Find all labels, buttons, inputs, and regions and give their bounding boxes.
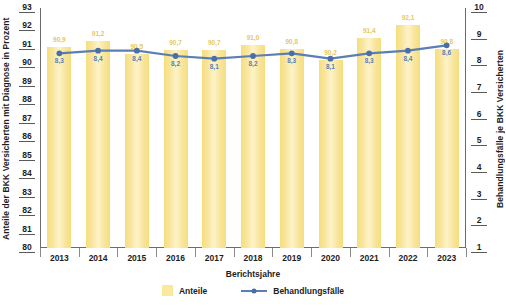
y-tick-label: 88 [14,94,40,106]
category-label: 2016 [156,250,195,266]
y-tick-label: 91 [14,39,40,51]
line-point[interactable] [328,56,334,62]
y-tick-label: 87 [14,113,40,125]
category-label: 2021 [350,250,389,266]
y2-tick-label: 9 [466,29,492,41]
y-tick-label: 93 [14,2,40,14]
category-tick [466,248,467,257]
y2-tick-label: 2 [466,215,492,227]
y-tick-label: 85 [14,150,40,162]
line-value-label: 8,3 [365,57,374,64]
line-point[interactable] [134,48,140,54]
y-tick-label: 84 [14,168,40,180]
line-value-label: 8,2 [248,60,257,67]
line-value-label: 8,3 [55,57,64,64]
y-tick-label: 89 [14,76,40,88]
legend-label: Anteile [179,286,207,296]
category-label: 2018 [234,250,273,266]
category-label: 2015 [117,250,156,266]
legend-item-anteile: Anteile [162,285,207,296]
left-axis-ticks: 8081828384858687888990919293 [14,8,40,248]
line-point[interactable] [56,50,62,56]
category-label: 2023 [427,250,466,266]
line-value-label: 8,4 [132,55,141,62]
y2-tick-label: 8 [466,55,492,67]
line-series [40,8,466,248]
y-tick-label: 86 [14,131,40,143]
line-point[interactable] [366,50,372,56]
y2-tick-label: 5 [466,135,492,147]
category-label: 2019 [272,250,311,266]
line-value-label: 8,6 [442,49,451,56]
line-value-label: 8,3 [287,57,296,64]
x-axis-title: Berichtsjahre [0,269,506,279]
line-value-label: 8,4 [94,55,103,62]
legend-label: Behandlungsfälle [273,286,344,296]
line-value-label: 8,1 [326,63,335,70]
line-point[interactable] [289,50,295,56]
line-point[interactable] [250,53,256,59]
line-point[interactable] [211,56,217,62]
y-tick-label: 80 [14,242,40,254]
legend-square-icon [162,285,173,296]
line-point[interactable] [95,48,101,54]
line-point[interactable] [173,53,179,59]
y-tick-label: 92 [14,20,40,32]
category-label: 2017 [195,250,234,266]
line-value-label: 8,1 [210,63,219,70]
category-label: 2022 [389,250,428,266]
y2-tick-label: 10 [466,2,492,14]
category-label: 2014 [79,250,118,266]
chart-container: Anteile der BKK Versicherten mit Diagnos… [0,0,506,306]
y-tick-label: 83 [14,187,40,199]
y2-tick-label: 4 [466,162,492,174]
category-label: 2013 [40,250,79,266]
chart-legend: Anteile Behandlungsfälle [0,285,506,296]
line-value-label: 8,4 [403,55,412,62]
y-tick-label: 82 [14,205,40,217]
y2-tick-label: 3 [466,189,492,201]
legend-item-behandlungsfaelle: Behandlungsfälle [241,285,344,296]
y-tick-label: 90 [14,57,40,69]
y2-tick-label: 7 [466,82,492,94]
legend-line-marker-icon [241,285,267,296]
plot-area: 90,991,290,590,790,791,090,890,291,492,1… [40,8,466,248]
y-tick-label: 81 [14,224,40,236]
line-point[interactable] [444,42,450,48]
line-point[interactable] [405,48,411,54]
left-axis-title: Anteile der BKK Versicherten mit Diagnos… [1,4,11,254]
category-axis-labels: 2013201420152016201720182019202020212022… [40,250,466,266]
y2-tick-label: 1 [466,242,492,254]
y2-tick-label: 6 [466,109,492,121]
line-value-label: 8,2 [171,60,180,67]
category-label: 2020 [311,250,350,266]
right-axis-ticks: 12345678910 [466,8,492,248]
right-axis-title: Behandlungsfälle je BKK Versicherten [495,4,505,254]
